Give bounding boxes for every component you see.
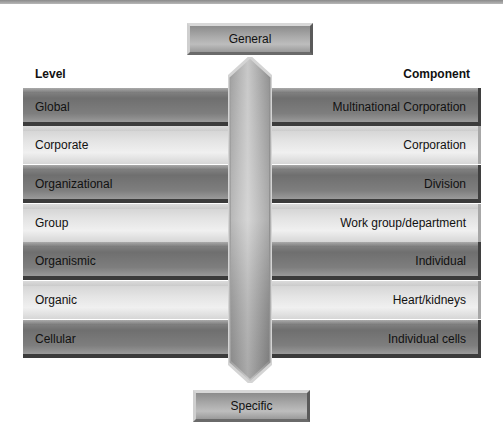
level-label: Corporate <box>35 138 88 152</box>
level-label: Organizational <box>35 177 112 191</box>
top-border-bar <box>0 0 503 4</box>
level-label: Cellular <box>35 332 76 346</box>
specific-box: Specific <box>193 390 310 422</box>
component-label: Corporation <box>403 138 466 152</box>
component-label: Individual cells <box>388 332 466 346</box>
component-header: Component <box>403 67 470 81</box>
component-label: Individual <box>415 254 466 268</box>
level-header: Level <box>35 67 66 81</box>
level-label: Organic <box>35 293 77 307</box>
general-box: General <box>187 23 313 55</box>
level-label: Organismic <box>35 254 96 268</box>
component-label: Heart/kidneys <box>393 293 466 307</box>
level-label: Group <box>35 216 68 230</box>
component-label: Multinational Corporation <box>333 100 466 114</box>
component-label: Work group/department <box>340 216 466 230</box>
double-arrow-icon <box>228 57 272 383</box>
component-label: Division <box>424 177 466 191</box>
level-label: Global <box>35 100 70 114</box>
double-arrow-column <box>228 57 272 383</box>
